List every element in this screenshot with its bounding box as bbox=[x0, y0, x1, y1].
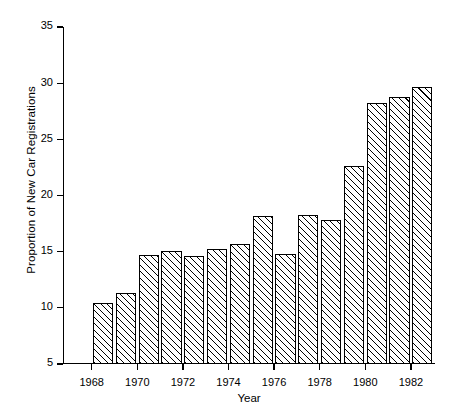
x-axis-title: Year bbox=[63, 392, 435, 405]
bar bbox=[253, 216, 273, 364]
y-axis-tick-label: 30 bbox=[41, 76, 53, 88]
y-axis-tick-label: 25 bbox=[41, 132, 53, 144]
bar bbox=[298, 215, 318, 364]
y-axis-tick: 20 bbox=[57, 195, 63, 196]
bar bbox=[321, 220, 341, 364]
plot-area: 5101520253035 19681970197219741976197819… bbox=[63, 27, 435, 364]
x-axis-tick-label: 1970 bbox=[125, 376, 149, 388]
x-axis-tick bbox=[319, 364, 320, 370]
bar bbox=[207, 249, 227, 364]
x-axis-tick-label: 1976 bbox=[262, 376, 286, 388]
y-axis-tick: 5 bbox=[57, 363, 63, 364]
y-axis-tick-label: 10 bbox=[41, 300, 53, 312]
y-axis-tick-label: 5 bbox=[47, 356, 53, 368]
x-axis-tick-label: 1972 bbox=[171, 376, 195, 388]
x-axis-tick-label: 1968 bbox=[79, 376, 103, 388]
bar bbox=[93, 303, 113, 364]
x-axis-tick bbox=[137, 364, 138, 370]
x-axis-tick-label: 1974 bbox=[216, 376, 240, 388]
y-axis-tick: 35 bbox=[57, 26, 63, 27]
y-axis-tick-label: 35 bbox=[41, 19, 53, 31]
x-axis-tick bbox=[182, 364, 183, 370]
y-axis-tick: 25 bbox=[57, 139, 63, 140]
bar bbox=[139, 255, 159, 364]
y-axis-tick: 10 bbox=[57, 307, 63, 308]
x-axis-tick-label: 1982 bbox=[399, 376, 423, 388]
bar-chart: Proportion of New Car Registrations 5101… bbox=[0, 0, 456, 411]
x-axis-tick bbox=[228, 364, 229, 370]
y-axis-title: Proportion of New Car Registrations bbox=[22, 5, 40, 355]
y-axis-line bbox=[63, 27, 64, 364]
bar bbox=[184, 256, 204, 364]
x-axis-tick bbox=[91, 364, 92, 370]
bar bbox=[116, 293, 136, 364]
y-axis-tick-label: 15 bbox=[41, 244, 53, 256]
x-axis-tick bbox=[273, 364, 274, 370]
bar bbox=[161, 251, 181, 364]
x-axis-tick-label: 1980 bbox=[353, 376, 377, 388]
y-axis-tick: 30 bbox=[57, 83, 63, 84]
x-axis-tick-label: 1978 bbox=[307, 376, 331, 388]
bar bbox=[275, 254, 295, 364]
x-axis-tick bbox=[410, 364, 411, 370]
bar bbox=[344, 166, 364, 364]
y-axis-tick-label: 20 bbox=[41, 188, 53, 200]
y-axis-tick: 15 bbox=[57, 251, 63, 252]
bar bbox=[412, 87, 432, 364]
bar bbox=[367, 103, 387, 364]
x-axis-tick bbox=[365, 364, 366, 370]
bar bbox=[230, 244, 250, 364]
bar bbox=[389, 97, 409, 364]
